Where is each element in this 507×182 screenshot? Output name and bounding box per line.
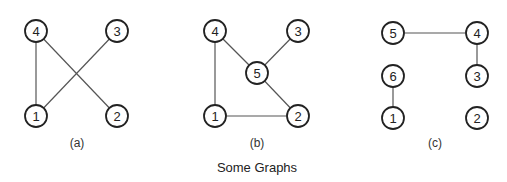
node-label: 2 (113, 109, 120, 124)
node-label: 3 (294, 24, 301, 39)
node-b-5: 5 (246, 62, 268, 84)
node-label: 1 (211, 109, 218, 124)
node-b-2: 2 (287, 105, 309, 127)
node-label: 5 (389, 26, 396, 41)
node-label: 4 (211, 24, 218, 39)
node-label: 3 (113, 24, 120, 39)
node-label: 5 (253, 66, 260, 81)
node-c-5: 5 (382, 22, 404, 44)
node-label: 4 (473, 26, 480, 41)
graph-label-c: (c) (428, 136, 442, 150)
node-b-4: 4 (204, 20, 226, 42)
node-label: 1 (32, 109, 39, 124)
node-label: 1 (389, 111, 396, 126)
node-label: 6 (389, 69, 396, 84)
node-c-2: 2 (466, 107, 488, 129)
node-c-3: 3 (466, 65, 488, 87)
node-c-1: 1 (382, 107, 404, 129)
node-c-6: 6 (382, 65, 404, 87)
nodes-layer: 431243512546312 (25, 20, 488, 129)
node-a-2: 2 (106, 105, 128, 127)
node-label: 4 (32, 24, 39, 39)
node-label: 2 (473, 111, 480, 126)
node-b-1: 1 (204, 105, 226, 127)
node-b-3: 3 (287, 20, 309, 42)
graphs-figure: 431243512546312 (a)(b)(c) Some Graphs (0, 0, 507, 182)
node-a-1: 1 (25, 105, 47, 127)
labels-layer: (a)(b)(c) (70, 136, 442, 150)
graph-label-a: (a) (70, 136, 85, 150)
figure-caption: Some Graphs (217, 160, 298, 175)
node-label: 3 (473, 69, 480, 84)
node-a-4: 4 (25, 20, 47, 42)
graph-label-b: (b) (250, 136, 265, 150)
node-c-4: 4 (466, 22, 488, 44)
node-label: 2 (294, 109, 301, 124)
node-a-3: 3 (106, 20, 128, 42)
